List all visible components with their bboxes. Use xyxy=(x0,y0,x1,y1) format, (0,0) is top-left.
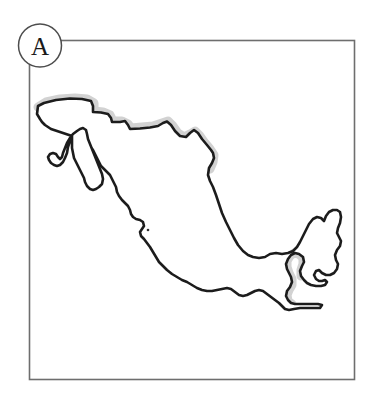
panel-label-letter: A xyxy=(31,33,49,60)
panel-label-badge: A xyxy=(0,0,373,402)
figure-panel-a: A xyxy=(0,0,373,402)
